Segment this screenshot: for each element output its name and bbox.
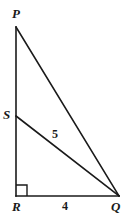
vertex-label-q: Q — [111, 200, 120, 213]
vertex-label-p: P — [12, 7, 20, 20]
segment-sq — [16, 116, 119, 196]
vertex-label-s: S — [3, 108, 10, 121]
geometry-figure: P S R Q 5 4 — [0, 0, 130, 220]
measure-label-rq: 4 — [62, 200, 68, 212]
segment-pq — [16, 27, 119, 196]
measure-label-sq: 5 — [52, 128, 58, 140]
right-angle-marker-r — [16, 185, 27, 196]
triangle-diagram — [0, 0, 130, 220]
vertex-label-r: R — [12, 200, 21, 213]
